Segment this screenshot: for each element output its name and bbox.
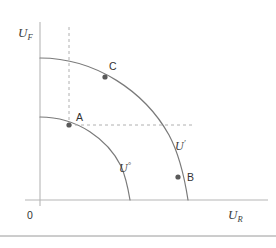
curve-label-u0-superscript: ° — [128, 161, 132, 170]
x-axis-label: UR — [228, 207, 243, 224]
utility-possibility-frontier-figure: A C B U° U′ UF UR 0 — [0, 0, 276, 248]
figure-canvas: A C B U° U′ UF UR 0 — [0, 0, 276, 248]
point-label-a: A — [76, 111, 83, 123]
datapoint-b — [175, 174, 180, 179]
point-label-b: B — [187, 171, 194, 183]
point-label-c: C — [109, 60, 117, 72]
datapoint-a — [66, 122, 71, 127]
curve-label-u-prime-superscript: ′ — [184, 139, 186, 148]
origin-label: 0 — [27, 209, 33, 221]
datapoint-c — [102, 74, 107, 79]
y-axis-label-subscript: F — [26, 32, 33, 42]
curve-label-u0: U° — [119, 161, 132, 175]
curve-u0 — [40, 117, 130, 200]
curve-label-u-prime: U′ — [175, 139, 186, 153]
y-axis-label: UF — [18, 25, 33, 42]
x-axis-label-subscript: R — [236, 214, 243, 224]
curve-u-prime — [40, 58, 188, 200]
